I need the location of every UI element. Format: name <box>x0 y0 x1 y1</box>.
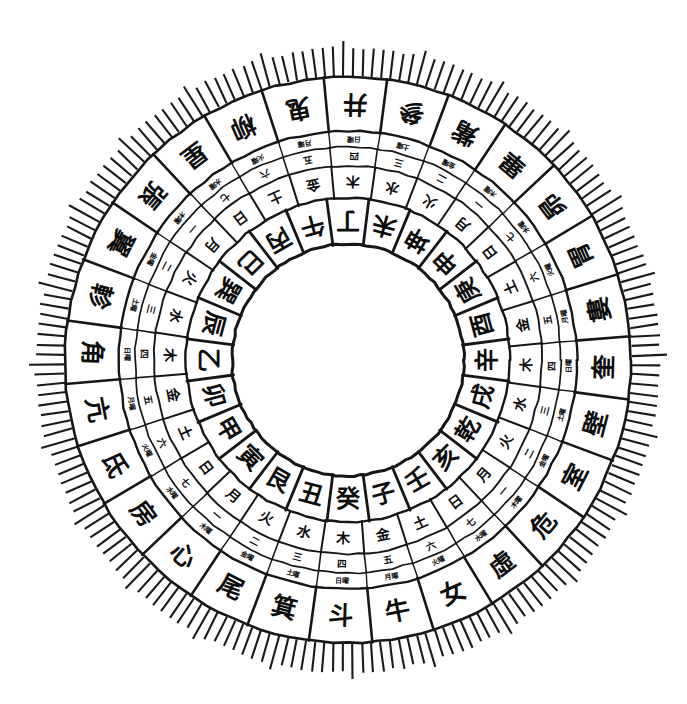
numeral-separator <box>481 500 494 515</box>
minor-tick <box>612 246 637 256</box>
mountain-separator <box>187 339 234 345</box>
numeral-glyph: 七 <box>218 190 233 205</box>
mountain-glyph: 癸 <box>335 485 361 513</box>
minor-tick <box>486 608 499 632</box>
minor-tick <box>40 314 67 319</box>
mansion-glyph: 軫 <box>83 280 118 312</box>
numeral-glyph: 二 <box>522 446 536 460</box>
major-tick <box>126 564 150 589</box>
mansion-glyph: 鬼 <box>283 92 313 125</box>
minor-tick <box>443 628 453 654</box>
mansion-glyph: 奎 <box>589 353 619 381</box>
minor-tick <box>452 624 463 651</box>
element-separator <box>437 198 456 225</box>
numeral-separator <box>164 458 181 469</box>
mountain-separator <box>463 375 510 381</box>
minor-tick <box>618 264 645 273</box>
element-separator <box>207 471 231 494</box>
minor-tick <box>626 420 653 426</box>
minor-tick <box>477 613 490 638</box>
element-separator <box>482 450 510 468</box>
mansion-glyph: 牛 <box>383 594 413 627</box>
element-glyph: 木 <box>345 174 361 190</box>
element-glyph: 火 <box>257 508 278 529</box>
minor-tick <box>215 617 227 641</box>
mountain-glyph: 辛 <box>473 348 501 372</box>
tiny-ring: 日曜月曜火曜水曜木曜金曜土曜日曜月曜火曜水曜木曜金曜土曜日曜月曜火曜水曜木曜金曜… <box>119 131 576 588</box>
mountain-separator <box>327 474 333 521</box>
mansion-separator <box>429 95 448 147</box>
numeral-separator <box>319 552 321 572</box>
minor-tick <box>629 402 657 406</box>
compass-svg: 角亢氐房心尾箕斗牛女虛危室壁奎婁胃昴畢觜參井鬼柳星張翼軫 日曜月曜火曜水曜木曜金… <box>0 0 687 704</box>
element-separator <box>502 301 534 311</box>
tiny-mark-separator <box>558 390 575 392</box>
tiny-mark-separator <box>220 537 230 551</box>
tiny-mark-separator <box>377 133 380 150</box>
mountain-separator <box>363 199 369 246</box>
mansion-glyph: 觜 <box>448 114 484 151</box>
minor-tick <box>55 455 80 465</box>
mansion-separator <box>576 336 631 340</box>
mansion-separator <box>367 588 372 643</box>
mountain-glyph: 子 <box>369 478 399 511</box>
minor-tick <box>67 226 91 238</box>
mansion-glyph: 亢 <box>80 395 113 425</box>
minor-tick <box>232 69 243 96</box>
tiny-mark-glyph: 月曜 <box>382 570 398 582</box>
tiny-mark-separator <box>494 514 506 526</box>
mansion-separator <box>247 574 266 625</box>
minor-tick <box>435 61 445 89</box>
numeral-glyph: 三 <box>539 404 552 416</box>
minor-tick <box>54 254 81 263</box>
minor-tick <box>601 218 625 230</box>
minor-tick <box>630 324 658 328</box>
minor-tick <box>612 465 640 475</box>
mansion-glyph: 心 <box>164 537 202 575</box>
tiny-mark-separator <box>190 193 202 205</box>
mountain-glyph: 卯 <box>197 381 230 411</box>
minor-tick <box>408 638 414 664</box>
numeral-glyph: 七 <box>463 515 478 530</box>
minor-tick <box>50 264 78 273</box>
minor-tick <box>632 345 659 346</box>
element-separator <box>371 167 376 200</box>
mansion-glyph: 畢 <box>494 145 532 183</box>
compass-diagram: 角亢氐房心尾箕斗牛女虛危室壁奎婁胃昴畢觜參井鬼柳星張翼軫 日曜月曜火曜水曜木曜金… <box>0 0 687 704</box>
numeral-separator <box>455 182 466 199</box>
element-glyph: 金 <box>164 385 183 404</box>
major-tick <box>417 51 426 85</box>
element-glyph: 日 <box>195 457 216 478</box>
mansion-glyph: 胃 <box>563 238 600 273</box>
element-glyph: 火 <box>419 191 440 212</box>
minor-tick <box>461 621 473 648</box>
numeral-glyph: 一 <box>496 484 511 499</box>
major-tick <box>624 429 658 437</box>
minor-tick <box>470 79 482 104</box>
minor-tick <box>242 627 252 654</box>
tiny-mark-separator <box>366 572 367 589</box>
tiny-mark-separator <box>423 145 429 161</box>
minor-tick <box>470 617 482 641</box>
numeral-separator <box>137 330 157 333</box>
tiny-mark-separator <box>531 243 546 252</box>
numeral-separator <box>514 251 531 261</box>
mansion-glyph: 房 <box>124 495 162 532</box>
major-tick <box>621 273 655 282</box>
element-separator <box>214 219 237 243</box>
element-glyph: 土 <box>411 512 430 532</box>
element-separator <box>289 175 299 207</box>
mansion-glyph: 斗 <box>328 601 354 631</box>
tiny-mark-glyph: 日曜 <box>347 135 361 144</box>
numeral-glyph: 三 <box>144 303 157 315</box>
mansion-glyph: 張 <box>133 176 172 215</box>
element-separator <box>508 383 541 388</box>
numeral-glyph: 一 <box>209 508 224 523</box>
mountain-separator <box>327 199 333 246</box>
numeral-separator <box>148 284 167 291</box>
minor-tick <box>69 489 95 503</box>
mountain-glyph: 午 <box>297 209 327 242</box>
element-separator <box>163 409 194 419</box>
element-separator <box>397 514 407 545</box>
element-glyph: 水 <box>166 307 185 326</box>
